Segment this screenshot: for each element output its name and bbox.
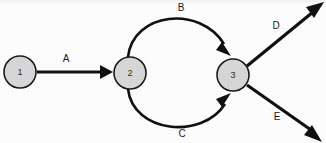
edge-e[interactable]: E: [247, 85, 322, 142]
node-1-label: 1: [17, 67, 22, 77]
node-2[interactable]: 2: [114, 57, 146, 89]
diagram-canvas: A C B D E 1: [0, 0, 326, 143]
edge-e-label: E: [274, 111, 281, 122]
node-2-label: 2: [127, 68, 132, 78]
edge-e-line: [247, 85, 311, 130]
edge-a[interactable]: A: [37, 53, 113, 80]
edge-d-line: [247, 12, 313, 66]
edge-a-arrowhead: [100, 65, 113, 79]
edge-b[interactable]: B: [128, 2, 231, 58]
directed-graph: A C B D E 1: [0, 0, 326, 143]
node-3-label: 3: [230, 70, 235, 80]
edge-c[interactable]: C: [128, 89, 231, 139]
edge-b-label: B: [178, 2, 185, 13]
node-1[interactable]: 1: [4, 56, 36, 88]
node-3[interactable]: 3: [217, 59, 249, 91]
edge-d-label: D: [272, 20, 279, 31]
edge-b-curve: [128, 19, 224, 57]
edge-c-curve: [128, 89, 225, 127]
edge-a-label: A: [63, 53, 70, 64]
edge-d[interactable]: D: [247, 2, 324, 66]
edge-c-label: C: [178, 128, 185, 139]
